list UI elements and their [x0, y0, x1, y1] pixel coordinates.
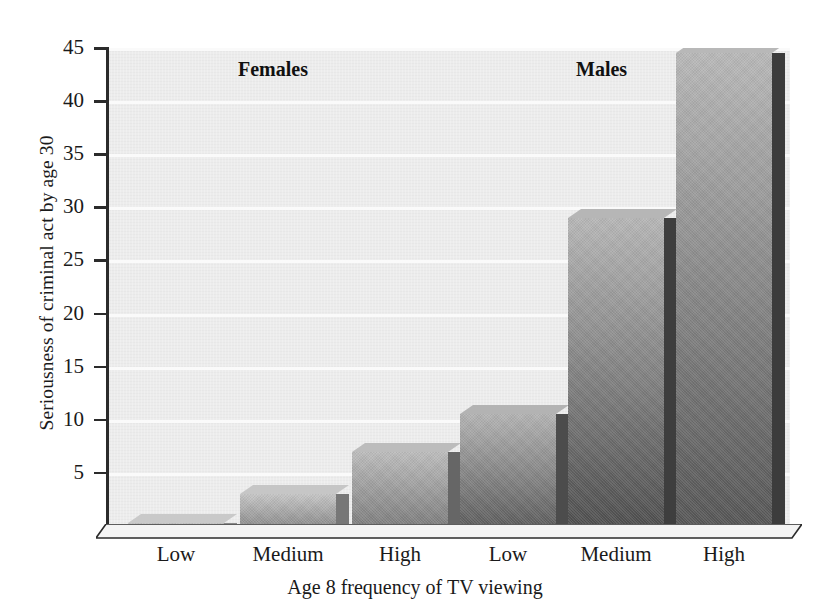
y-tick-mark — [94, 313, 107, 316]
y-tick-mark — [94, 100, 107, 103]
bar-males-low — [460, 414, 556, 526]
bar-top-face — [240, 485, 349, 494]
bar-texture — [352, 452, 448, 526]
x-axis-title: Age 8 frequency of TV viewing — [0, 576, 830, 599]
bar-front-face — [460, 414, 556, 526]
y-tick-label: 25 — [24, 249, 84, 270]
bar-front-face — [676, 53, 772, 526]
y-tick-mark — [94, 153, 107, 156]
bar-texture — [676, 53, 772, 526]
y-tick-mark — [94, 47, 107, 50]
bar-chart-figure: Seriousness of criminal act by age 30 45… — [0, 0, 830, 610]
bar-front-face — [352, 452, 448, 526]
bar-males-high — [676, 53, 772, 526]
y-tick-label: 45 — [24, 37, 84, 58]
y-tick-label: 20 — [24, 303, 84, 324]
y-tick-label: 35 — [24, 143, 84, 164]
bar-front-face — [568, 218, 664, 526]
y-tick-label: 30 — [24, 196, 84, 217]
bar-side-face — [772, 53, 785, 526]
y-tick-mark — [94, 206, 107, 209]
bar-females-medium — [240, 494, 336, 526]
bar-females-high — [352, 452, 448, 526]
group-label-males: Males — [576, 58, 627, 81]
bar-texture — [568, 218, 664, 526]
y-axis-line — [106, 47, 109, 527]
bar-side-face — [336, 494, 349, 526]
bar-top-face — [460, 405, 569, 414]
group-label-females: Females — [238, 58, 308, 81]
bar-top-face — [128, 514, 237, 523]
y-tick-mark — [94, 419, 107, 422]
y-tick-label: 15 — [24, 356, 84, 377]
y-tick-label: 10 — [24, 409, 84, 430]
y-tick-label: 5 — [24, 462, 84, 483]
bar-top-face — [568, 209, 677, 218]
bar-top-face — [676, 48, 785, 53]
y-tick-label: 40 — [24, 90, 84, 111]
axis-floor-3d — [96, 524, 802, 540]
y-axis-title: Seriousness of criminal act by age 30 — [36, 48, 58, 518]
x-tick-label: High — [656, 542, 792, 567]
plot-area — [108, 48, 790, 526]
bar-texture — [240, 494, 336, 526]
bar-top-face — [352, 443, 461, 452]
y-tick-mark — [94, 366, 107, 369]
bar-texture — [460, 414, 556, 526]
bar-males-medium — [568, 218, 664, 526]
bar-front-face — [240, 494, 336, 526]
y-tick-mark — [94, 259, 107, 262]
y-tick-mark — [94, 472, 107, 475]
